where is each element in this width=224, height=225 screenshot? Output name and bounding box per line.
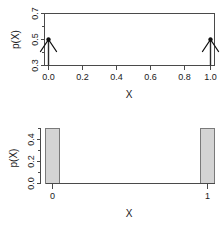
top-ytick-label-2: 0.3 bbox=[30, 59, 40, 72]
top-xtick-label-1: 0.2 bbox=[76, 72, 89, 82]
bottom-xtick-label-1: 1 bbox=[205, 191, 210, 201]
continuous-density-panel: 0.7 0.5 0.3 p(X) 0.0 0.2 0.4 0.6 0.8 1.0 bbox=[0, 0, 224, 112]
top-ytick-label-0: 0.7 bbox=[30, 7, 40, 20]
top-x-axis-ticks bbox=[49, 66, 211, 70]
top-panel-svg: 0.7 0.5 0.3 p(X) 0.0 0.2 0.4 0.6 0.8 1.0 bbox=[0, 0, 224, 112]
bar-category-1 bbox=[201, 129, 215, 184]
bottom-panel-svg: 0.4 0.2 0.0 p(X) 0 1 X bbox=[0, 112, 224, 225]
bottom-x-axis-title: X bbox=[126, 208, 133, 219]
top-y-axis-ticks bbox=[41, 14, 45, 66]
top-y-axis-title: p(X) bbox=[10, 30, 21, 49]
bottom-y-axis-title: p(X) bbox=[8, 149, 19, 168]
top-xtick-label-5: 1.0 bbox=[204, 72, 217, 82]
two-panel-figure: 0.7 0.5 0.3 p(X) 0.0 0.2 0.4 0.6 0.8 1.0 bbox=[0, 0, 224, 225]
bottom-x-axis-ticks bbox=[53, 184, 208, 189]
density-spike-at-1 bbox=[203, 38, 219, 66]
bottom-ytick-label-0: 0.4 bbox=[26, 133, 36, 146]
top-x-axis-title: X bbox=[126, 89, 133, 100]
top-xtick-label-4: 0.8 bbox=[178, 72, 191, 82]
bar-category-0 bbox=[46, 129, 60, 184]
bottom-ytick-label-1: 0.2 bbox=[26, 155, 36, 168]
bottom-ytick-label-2: 0.0 bbox=[26, 177, 36, 190]
top-xtick-label-3: 0.6 bbox=[144, 72, 157, 82]
top-xtick-label-2: 0.4 bbox=[110, 72, 123, 82]
top-plot-frame bbox=[45, 14, 215, 66]
bottom-y-axis-ticks bbox=[37, 129, 41, 184]
top-ytick-label-1: 0.5 bbox=[30, 33, 40, 46]
density-spike-at-0 bbox=[41, 38, 57, 66]
top-xtick-label-0: 0.0 bbox=[42, 72, 55, 82]
bottom-xtick-label-0: 0 bbox=[50, 191, 55, 201]
discrete-pmf-panel: 0.4 0.2 0.0 p(X) 0 1 X bbox=[0, 112, 224, 225]
